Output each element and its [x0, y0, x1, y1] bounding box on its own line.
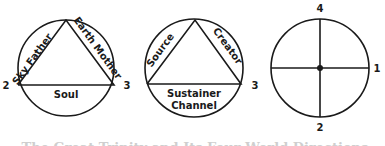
- circle: [18, 20, 114, 116]
- number-4: 4: [317, 3, 324, 14]
- center-dot: [317, 65, 323, 71]
- label-sustainer: Sustainer: [167, 88, 221, 99]
- quaternity-cross-diagram: 4 1 2: [271, 3, 381, 133]
- diagram-canvas: Sky Father Earth Mother Soul 2 3 Source …: [0, 0, 385, 146]
- number-3: 3: [124, 80, 131, 91]
- label-sky-father: Sky Father: [10, 31, 54, 86]
- number-1: 1: [374, 63, 381, 74]
- trinity-creator-diagram: Source Creator Sustainer Channel 3: [144, 19, 258, 117]
- label-earth-mother: Earth Mother: [72, 15, 125, 82]
- figure-caption: The Great Trinity and Its Four World Dir…: [22, 140, 369, 146]
- label-soul: Soul: [54, 89, 79, 100]
- trinity-soul-diagram: Sky Father Earth Mother Soul 2 3: [3, 15, 131, 116]
- label-channel: Channel: [171, 100, 217, 111]
- number-2: 2: [317, 122, 324, 133]
- number-3: 3: [252, 80, 259, 91]
- number-2: 2: [3, 80, 10, 91]
